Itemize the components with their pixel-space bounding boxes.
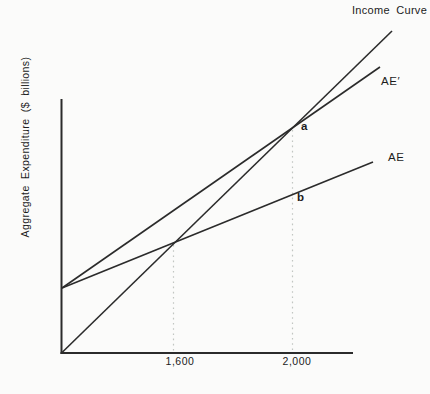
income-curve-line (62, 31, 393, 353)
y-axis-label: Aggregate Expenditure ($ billions) (19, 57, 31, 238)
ae-prime-label: AE′ (381, 75, 400, 87)
x-tick-1600: 1,600 (166, 355, 195, 367)
ae-prime-line (62, 67, 380, 288)
point-b-label: b (297, 191, 304, 203)
ae-label: AE (388, 151, 405, 163)
ae-income-curve-chart: Aggregate Expenditure ($ billions) Incom… (0, 0, 430, 394)
chart-canvas (0, 0, 430, 394)
point-a-label: a (301, 120, 307, 132)
income-curve-label: Income Curve (352, 4, 427, 16)
x-tick-2000: 2,000 (283, 355, 312, 367)
